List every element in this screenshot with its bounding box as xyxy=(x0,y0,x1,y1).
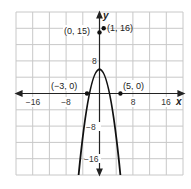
x-tick-label: 16 xyxy=(161,97,171,107)
x-axis-label: x xyxy=(175,96,182,107)
parabola-graph: −16 −8 8 16 x 8 −8 −16 y (0, 15) (1, 16)… xyxy=(0,0,191,189)
point-label: (0, 15) xyxy=(64,26,90,36)
point-1-16 xyxy=(102,26,106,30)
point-5-0 xyxy=(118,91,122,95)
y-tick-label: −8 xyxy=(86,122,96,132)
point-label: (5, 0) xyxy=(123,81,144,91)
x-tick-label: −16 xyxy=(26,97,41,107)
point-0-15 xyxy=(97,30,101,34)
x-tick-label: −8 xyxy=(61,97,71,107)
y-tick-label: −16 xyxy=(84,154,99,164)
point-neg3-0 xyxy=(85,91,89,95)
point-label: (−3, 0) xyxy=(51,81,77,91)
point-label: (1, 16) xyxy=(107,23,133,33)
x-tick-label: 8 xyxy=(131,97,136,107)
y-tick-label: 8 xyxy=(92,56,97,66)
y-axis-label: y xyxy=(102,10,109,21)
